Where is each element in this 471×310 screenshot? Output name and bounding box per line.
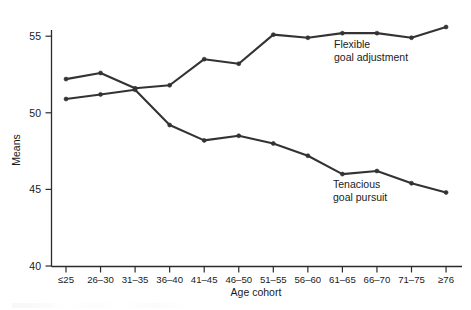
page-footer-artifact — [12, 303, 192, 308]
data-point — [99, 92, 103, 96]
x-tick-label-7: 51–55 — [260, 274, 287, 285]
y-tick-label-45: 45 — [29, 183, 41, 195]
data-point — [99, 71, 103, 75]
data-point — [340, 172, 344, 176]
x-tick-label-8: 56–60 — [295, 274, 322, 285]
series-tenacious-goal-pursuit — [64, 88, 448, 195]
data-point — [375, 31, 379, 35]
x-tick-label-1: ≤25 — [58, 274, 74, 285]
y-tick-label-40: 40 — [29, 260, 41, 272]
data-point — [410, 181, 414, 185]
y-axis-title: Means — [10, 134, 22, 166]
data-point — [444, 25, 448, 29]
data-point — [168, 83, 172, 87]
data-point — [237, 62, 241, 66]
line-chart: 55 50 45 40 Means ≤2526–3031–3536–4041–4… — [0, 0, 471, 310]
data-point — [64, 77, 68, 81]
data-point — [64, 97, 68, 101]
chart-page: 55 50 45 40 Means ≤2526–3031–3536–4041–4… — [0, 0, 471, 310]
data-point — [271, 33, 275, 37]
tenacious-annotation-line2: goal pursuit — [333, 191, 387, 203]
x-axis-ticks — [66, 267, 446, 273]
data-point — [133, 88, 137, 92]
x-tick-label-2: 26–30 — [87, 274, 114, 285]
data-point — [444, 190, 448, 194]
x-axis-tick-labels: ≤2526–3031–3536–4041–4546–5051–5556–6061… — [58, 274, 454, 285]
data-point — [306, 154, 310, 158]
x-tick-label-6: 46–50 — [225, 274, 252, 285]
x-tick-label-4: 36–40 — [156, 274, 183, 285]
x-tick-label-5: 41–45 — [191, 274, 218, 285]
data-point — [202, 57, 206, 61]
x-axis-title: Age cohort — [231, 286, 282, 298]
y-axis-tick-labels: 55 50 45 40 — [29, 30, 41, 272]
y-tick-label-50: 50 — [29, 107, 41, 119]
x-tick-label-10: 66–70 — [364, 274, 391, 285]
x-tick-label-9: 61–65 — [329, 274, 356, 285]
y-axis-ticks — [46, 36, 52, 266]
series-line — [66, 90, 446, 193]
tenacious-annotation: Tenacious goal pursuit — [333, 178, 387, 203]
data-point — [306, 36, 310, 40]
data-point — [168, 123, 172, 127]
flexible-annotation-line1: Flexible — [334, 38, 370, 50]
tenacious-annotation-line1: Tenacious — [333, 178, 380, 190]
data-point — [375, 169, 379, 173]
x-tick-label-3: 31–35 — [122, 274, 149, 285]
x-tick-label-11: 71–75 — [398, 274, 425, 285]
y-tick-label-55: 55 — [29, 30, 41, 42]
data-point — [237, 134, 241, 138]
data-point — [410, 36, 414, 40]
data-point — [202, 138, 206, 142]
x-tick-label-12: ≥76 — [438, 274, 454, 285]
data-point — [271, 141, 275, 145]
data-point — [340, 31, 344, 35]
flexible-annotation-line2: goal adjustment — [334, 51, 408, 63]
flexible-annotation: Flexible goal adjustment — [334, 38, 408, 63]
